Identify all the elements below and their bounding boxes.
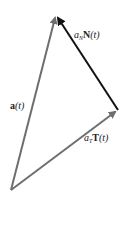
- label-a: a(t): [10, 101, 24, 111]
- vector-aT: [11, 112, 115, 190]
- label-aT: aTT(t): [84, 133, 108, 144]
- label-aN: aNN(t): [74, 30, 100, 41]
